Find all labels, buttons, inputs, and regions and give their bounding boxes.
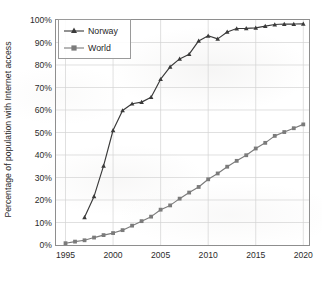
legend-swatch-norway	[63, 25, 85, 37]
chart-legend: Norway World	[58, 19, 131, 59]
internet-access-line-chart: Percentage of population with Internet a…	[0, 0, 322, 290]
plot-area	[0, 0, 322, 290]
legend-item-norway: Norway	[63, 23, 118, 39]
legend-swatch-world	[63, 42, 85, 54]
legend-label-world: World	[88, 43, 111, 53]
legend-item-world: World	[63, 40, 111, 56]
legend-label-norway: Norway	[88, 26, 118, 36]
